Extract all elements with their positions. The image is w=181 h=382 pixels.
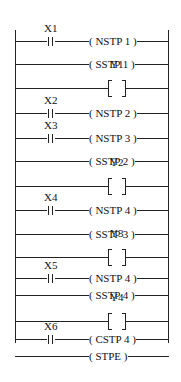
rung-wire — [15, 321, 169, 322]
step-instruction-coil: ( NSTP 1 ) — [89, 34, 137, 48]
contact-label: X1 — [44, 22, 57, 34]
rung-wire — [15, 186, 169, 187]
step-instruction-coil: ( NSTP 2 ) — [89, 106, 137, 120]
step-instruction-coil: ( STPE ) — [89, 349, 128, 363]
contact-label: X3 — [44, 119, 57, 131]
step-instruction-coil: ( NSTP 3 ) — [89, 131, 137, 145]
step-instruction-coil: ( NSTP 4 ) — [89, 271, 137, 285]
contact-label: X4 — [44, 191, 57, 203]
rung: ( SSTP 3 ) — [15, 234, 169, 235]
normally-open-contact: X5 — [47, 274, 55, 283]
output-coil: Y4 — [108, 313, 126, 329]
rung-wire — [15, 257, 169, 258]
rung: Y2 — [15, 186, 169, 187]
output-label: Y1 — [110, 58, 123, 70]
contact-label: X2 — [44, 94, 57, 106]
normally-open-contact: X4 — [47, 206, 55, 215]
output-label: Y3 — [110, 227, 123, 239]
rung-wire — [15, 88, 169, 89]
contact-label: X6 — [44, 320, 57, 332]
output-coil: Y1 — [108, 80, 126, 96]
output-label: Y4 — [110, 291, 123, 303]
rung: X4( NSTP 4 ) — [15, 210, 169, 211]
rung: ( SSTP 4 ) — [15, 295, 169, 296]
rung: Y1 — [15, 88, 169, 89]
normally-open-contact: X6 — [47, 335, 55, 344]
rung: ( STPE ) — [15, 356, 169, 357]
contact-label: X5 — [44, 259, 57, 271]
rung: X5( NSTP 4 ) — [15, 278, 169, 279]
rung: X3( NSTP 3 ) — [15, 138, 169, 139]
normally-open-contact: X2 — [47, 109, 55, 118]
rung: Y4 — [15, 321, 169, 322]
rung: ( SSTP 2 ) — [15, 161, 169, 162]
normally-open-contact: X1 — [47, 37, 55, 46]
output-label: Y2 — [110, 156, 123, 168]
output-coil: Y2 — [108, 178, 126, 194]
step-instruction-coil: ( CSTP 4 ) — [89, 332, 136, 346]
rung: X6( CSTP 4 ) — [15, 339, 169, 340]
output-coil: Y3 — [108, 249, 126, 265]
rung: Y3 — [15, 257, 169, 258]
rung: X2( NSTP 2 ) — [15, 113, 169, 114]
rung: ( SSTP 1 ) — [15, 64, 169, 65]
step-instruction-coil: ( NSTP 4 ) — [89, 203, 137, 217]
normally-open-contact: X3 — [47, 134, 55, 143]
rung: X1( NSTP 1 ) — [15, 41, 169, 42]
